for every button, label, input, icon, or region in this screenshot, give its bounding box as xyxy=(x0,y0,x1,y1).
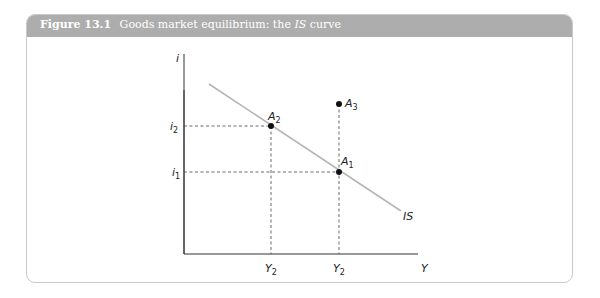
label-a3: A3 xyxy=(344,97,358,112)
x-tick-y2-left: Y2 xyxy=(265,262,277,277)
is-curve-diagram: A2 A3 A1 i Y i2 i1 Y2 Y2 IS xyxy=(0,0,600,298)
is-curve-line xyxy=(209,84,401,211)
y-tick-i2: i2 xyxy=(170,120,178,135)
label-a2: A2 xyxy=(267,110,281,125)
label-a1: A1 xyxy=(340,155,354,170)
x-tick-y2-right: Y2 xyxy=(333,262,345,277)
point-a3 xyxy=(336,101,342,107)
is-curve-label: IS xyxy=(403,210,413,223)
x-axis-label: Y xyxy=(421,262,429,275)
point-a1 xyxy=(336,169,342,175)
y-tick-i1: i1 xyxy=(172,166,180,181)
point-a2 xyxy=(268,123,274,129)
y-axis-label: i xyxy=(176,52,179,65)
